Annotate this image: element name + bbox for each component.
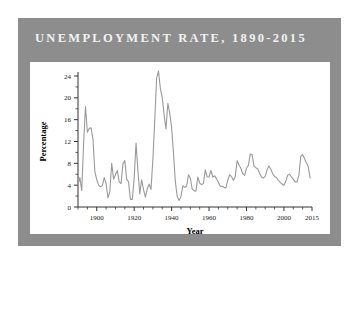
x-tick-label: 1980: [239, 214, 254, 222]
y-tick-label: 20: [64, 94, 72, 102]
axis-lines: [78, 72, 312, 207]
line-chart-plot: 04812162024 1900192019401960198020002015…: [30, 62, 330, 234]
y-axis-tick-labels: 04812162024: [64, 73, 72, 212]
chart-figure: UNEMPLOYMENT RATE, 1890-2015 04812162024…: [0, 0, 360, 312]
y-axis-ticks: [74, 76, 78, 207]
x-tick-label: 1900: [90, 214, 105, 222]
y-tick-label: 12: [64, 138, 72, 146]
y-tick-label: 16: [64, 116, 72, 124]
x-axis-tick-labels: 1900192019401960198020002015: [90, 214, 320, 222]
x-tick-label: 2015: [305, 214, 320, 222]
x-tick-label: 2000: [277, 214, 292, 222]
x-tick-label: 1940: [165, 214, 180, 222]
x-tick-label: 1920: [127, 214, 142, 222]
x-axis-ticks: [78, 207, 312, 211]
x-axis-title: Year: [187, 226, 204, 234]
plot-card: 04812162024 1900192019401960198020002015…: [30, 62, 330, 234]
y-tick-label: 8: [68, 160, 72, 168]
x-tick-label: 1960: [202, 214, 217, 222]
page-title: UNEMPLOYMENT RATE, 1890-2015: [35, 28, 315, 48]
y-axis-title: Percentage: [38, 121, 48, 161]
y-tick-label: 24: [64, 73, 72, 81]
unemployment-line-series: [78, 71, 310, 200]
y-tick-label: 4: [68, 182, 72, 190]
y-tick-label: 0: [68, 204, 72, 212]
